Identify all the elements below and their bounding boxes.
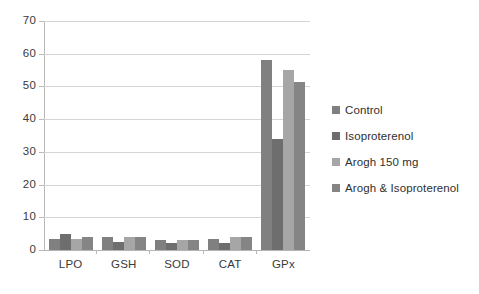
legend-item[interactable]: Isoproterenol [332, 123, 477, 149]
y-axis-tick [39, 119, 44, 120]
y-axis-tick-label: 20 [4, 179, 36, 191]
bar [294, 82, 305, 250]
bar [166, 243, 177, 250]
y-axis-tick-label: 50 [4, 80, 36, 92]
legend-swatch-icon [332, 158, 340, 166]
legend-item-label: Arogh & Isoproterenol [345, 182, 459, 194]
x-axis-tick-label: GSH [97, 258, 150, 276]
y-axis-tick [39, 21, 44, 22]
bar-group [257, 21, 310, 250]
x-axis-tick [149, 250, 150, 254]
bar [219, 243, 230, 250]
y-axis-tick [39, 54, 44, 55]
x-axis-tick [96, 250, 97, 254]
legend-item-label: Isoproterenol [345, 130, 413, 142]
y-axis-tick-label: 0 [4, 244, 36, 256]
y-axis-labels: 706050403020100 [0, 0, 36, 294]
x-axis-tick-label: LPO [44, 258, 97, 276]
bar [188, 240, 199, 250]
bar [71, 239, 82, 250]
legend-swatch-icon [332, 106, 340, 114]
y-axis-tick [39, 185, 44, 186]
bar [283, 70, 294, 250]
legend-item[interactable]: Arogh 150 mg [332, 149, 477, 175]
legend-item[interactable]: Arogh & Isoproterenol [332, 175, 477, 201]
y-axis-tick [39, 217, 44, 218]
bar [113, 242, 124, 250]
y-axis-tick-label: 30 [4, 146, 36, 158]
bar [135, 237, 146, 250]
gridline [44, 250, 310, 251]
bar-chart: 706050403020100 LPOGSHSODCATGPx ControlI… [0, 0, 479, 294]
y-axis-tick-label: 40 [4, 113, 36, 125]
x-axis-labels: LPOGSHSODCATGPx [44, 258, 310, 276]
y-axis-tick-label: 60 [4, 48, 36, 60]
y-axis-tick-label: 70 [4, 15, 36, 27]
bar-group [150, 21, 203, 250]
bar [82, 237, 93, 250]
bar [261, 60, 272, 250]
bar [241, 237, 252, 250]
plot-area [44, 21, 310, 250]
bar [155, 240, 166, 250]
y-axis-tick [39, 250, 44, 251]
legend-swatch-icon [332, 132, 340, 140]
bar [230, 237, 241, 250]
bar-groups [44, 21, 310, 250]
bar-group [204, 21, 257, 250]
legend-item-label: Control [345, 104, 383, 116]
bar-group [97, 21, 150, 250]
bar [49, 239, 60, 250]
bar [60, 234, 71, 250]
y-axis-tick [39, 86, 44, 87]
bar [177, 240, 188, 250]
x-axis-tick [203, 250, 204, 254]
x-axis-tick-label: CAT [204, 258, 257, 276]
bar [124, 237, 135, 250]
legend-item[interactable]: Control [332, 97, 477, 123]
x-axis-tick [256, 250, 257, 254]
bar [208, 239, 219, 250]
y-axis-tick [39, 152, 44, 153]
y-axis-tick-label: 10 [4, 211, 36, 223]
x-axis-tick-label: GPx [257, 258, 310, 276]
bar-group [44, 21, 97, 250]
legend-swatch-icon [332, 184, 340, 192]
legend-item-label: Arogh 150 mg [345, 156, 418, 168]
bar [102, 237, 113, 250]
x-axis-tick-label: SOD [150, 258, 203, 276]
bar [272, 139, 283, 250]
chart-legend: ControlIsoproterenolArogh 150 mgArogh & … [332, 97, 477, 201]
